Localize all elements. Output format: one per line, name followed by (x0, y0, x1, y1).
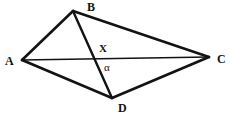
segment-bc (73, 11, 209, 57)
segment-ac-diagonal (22, 57, 209, 60)
vertex-label-c: C (217, 53, 226, 65)
quadrilateral-sides (22, 11, 209, 98)
angle-label-alpha: α (104, 62, 110, 73)
segment-cd (112, 57, 209, 98)
segment-ab (22, 11, 73, 60)
vertex-label-b: B (87, 1, 95, 13)
intersection-label-x: X (99, 43, 107, 54)
geometry-diagram: A B C D X α (0, 0, 230, 115)
vertex-label-a: A (5, 55, 14, 67)
figure-svg (0, 0, 230, 115)
vertex-label-d: D (118, 102, 127, 114)
